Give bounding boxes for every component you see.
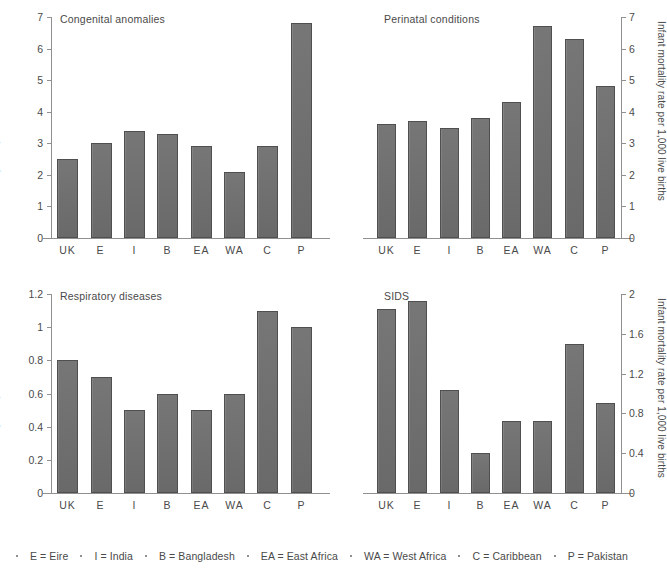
bar-I xyxy=(440,390,459,493)
x-tick-label-UK: UK xyxy=(371,500,402,511)
x-tick-label-B: B xyxy=(465,500,496,511)
x-tick-label-EA: EA xyxy=(496,500,527,511)
x-tick-label-I: I xyxy=(434,500,465,511)
bar-C xyxy=(565,344,584,493)
legend-item: EA = East Africa xyxy=(249,550,350,562)
bar-WA xyxy=(533,421,552,493)
bar-EA xyxy=(502,421,521,493)
figure-legend: E = EireI = IndiaB = BangladeshEA = East… xyxy=(0,545,656,567)
y-tick xyxy=(622,413,626,414)
y-tick-label: 0 xyxy=(629,488,667,499)
bar-E xyxy=(408,301,427,493)
y-tick xyxy=(622,453,626,454)
legend-item: C = Caribbean xyxy=(460,550,553,562)
bar-UK xyxy=(377,309,396,493)
y-axis-title: Infant mortality rate per 1,000 live bir… xyxy=(656,21,667,201)
legend-item: WA = West Africa xyxy=(352,550,458,562)
y-tick xyxy=(622,294,626,295)
y-axis-line xyxy=(621,294,622,494)
legend-item: I = India xyxy=(82,550,145,562)
y-axis-title: Infant mortality rate per 1,000 live bir… xyxy=(656,298,667,478)
bar-B xyxy=(471,453,490,493)
y-tick xyxy=(622,374,626,375)
x-tick-label-E: E xyxy=(402,500,433,511)
y-tick xyxy=(622,493,626,494)
x-axis-line xyxy=(363,493,633,494)
legend-item: E = Eire xyxy=(18,550,80,562)
legend-item: B = Bangladesh xyxy=(147,550,247,562)
x-tick-label-WA: WA xyxy=(527,500,558,511)
panel-title: SIDS xyxy=(384,290,409,302)
bar-P xyxy=(596,403,615,493)
x-tick-label-P: P xyxy=(590,500,621,511)
legend-item: P = Pakistan xyxy=(556,550,640,562)
x-tick-label-C: C xyxy=(559,500,590,511)
y-tick xyxy=(622,334,626,335)
